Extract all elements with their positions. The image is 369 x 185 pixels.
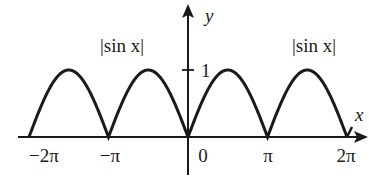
x-tick-label-negpi: −π <box>100 145 121 166</box>
x-axis-label: x <box>354 104 364 125</box>
x-tick-label-zero: 0 <box>198 145 208 166</box>
x-tick-label-2pi: 2π <box>336 145 356 166</box>
y-tick-label-one: 1 <box>201 60 211 81</box>
annotation-right: |sin x| <box>292 35 336 56</box>
sin-abs-plot: |sin x| |sin x| y x 1 −2π −π 0 π 2π <box>0 0 369 185</box>
x-tick-label-neg2pi: −2π <box>29 145 59 166</box>
curve-end-mark <box>347 127 352 137</box>
y-axis-label: y <box>203 5 214 26</box>
annotation-left: |sin x| <box>100 35 144 56</box>
x-tick-label-pi: π <box>263 145 273 166</box>
